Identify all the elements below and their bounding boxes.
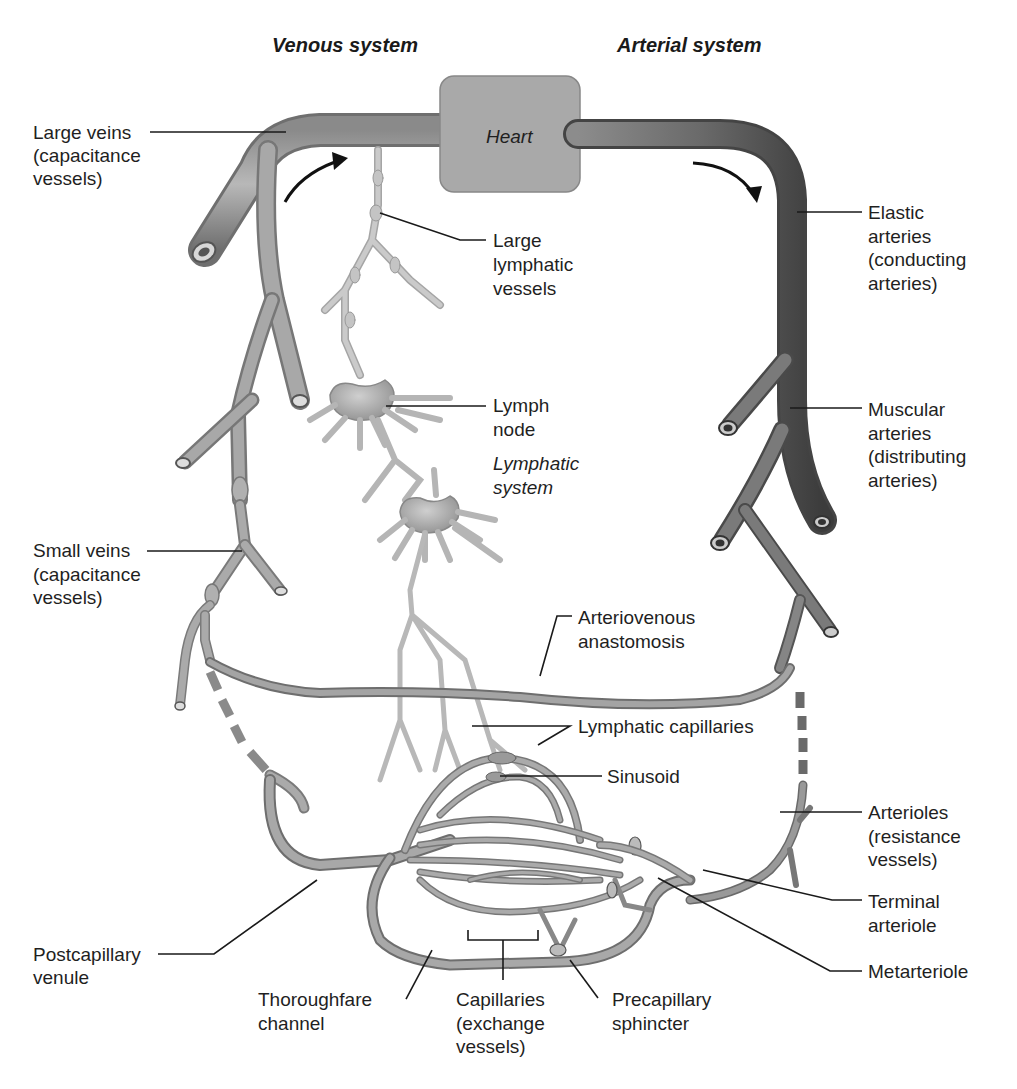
label-lymphatic-system: Lymphatic system [493,453,585,498]
label-precapillary-sphincter: Precapillary sphincter [612,989,717,1034]
heart-label: Heart [486,126,533,147]
arterial-system-title: Arterial system [616,34,762,56]
label-arteriovenous-anastomosis: Arteriovenous anastomosis [578,607,701,652]
label-lymphatic-capillaries: Lymphatic capillaries [578,716,754,737]
heart: Heart [440,76,580,192]
label-sinusoid: Sinusoid [607,766,680,787]
capillaries-bracket [468,930,538,980]
label-large-veins: Large veins (capacitance vessels) [33,122,146,189]
arterial-flow-arrow [693,163,754,195]
arterial-flow-arrowhead [746,186,762,203]
venous-flow-arrow [285,162,335,202]
label-postcapillary-venule: Postcapillary venule [33,944,146,988]
venous-system-title: Venous system [272,34,418,56]
label-arterioles: Arterioles (resistance vessels) [868,802,966,870]
label-capillaries: Capillaries (exchange vessels) [456,989,550,1057]
label-thoroughfare-channel: Thoroughfare channel [258,989,377,1034]
label-metarteriole: Metarteriole [868,961,968,982]
label-small-veins: Small veins (capacitance vessels) [33,540,146,608]
label-lymph-node: Lymph node [493,395,555,440]
circulatory-system-diagram: Venous system Arterial system [0,0,1017,1089]
label-terminal-arteriole: Terminal arteriole [868,891,945,936]
label-elastic-arteries: Elastic arteries (conducting arteries) [868,202,972,294]
arteriovenous-anastomosis-vessel [210,662,790,704]
label-muscular-arteries: Muscular arteries (distributing arteries… [868,399,972,491]
label-large-lymphatic-vessels: Large lymphatic vessels [493,230,579,299]
venous-flow-arrowhead [332,152,348,170]
